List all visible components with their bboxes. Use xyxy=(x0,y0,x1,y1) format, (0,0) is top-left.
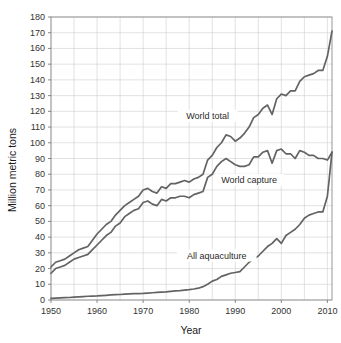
series-annotation-world-total: World total xyxy=(186,111,229,121)
y-tick-label: 20 xyxy=(35,264,45,274)
fisheries-production-chart: 0102030405060708090100110120130140150160… xyxy=(0,0,341,343)
x-tick-label: 1960 xyxy=(87,306,107,316)
y-tick-label: 180 xyxy=(30,12,45,22)
y-tick-labels: 0102030405060708090100110120130140150160… xyxy=(30,12,45,305)
x-tick-label: 2010 xyxy=(317,306,337,316)
y-tick-label: 60 xyxy=(35,201,45,211)
y-tick-label: 0 xyxy=(40,295,45,305)
y-tick-label: 130 xyxy=(30,91,45,101)
x-tick-label: 1990 xyxy=(225,306,245,316)
y-axis-title: Million metric tons xyxy=(6,128,18,212)
y-tick-label: 10 xyxy=(35,279,45,289)
chart-canvas: 0102030405060708090100110120130140150160… xyxy=(0,0,341,343)
series-annotation-world-capture: World capture xyxy=(221,175,277,185)
x-tick-label: 1950 xyxy=(41,306,61,316)
y-tick-label: 160 xyxy=(30,43,45,53)
x-tickmarks xyxy=(51,300,327,303)
x-tick-label: 1970 xyxy=(133,306,153,316)
y-tick-label: 70 xyxy=(35,185,45,195)
y-tick-label: 100 xyxy=(30,138,45,148)
x-tick-labels: 1950196019701980199020002010 xyxy=(41,306,337,316)
y-tick-label: 40 xyxy=(35,232,45,242)
y-tick-label: 150 xyxy=(30,59,45,69)
y-tick-label: 90 xyxy=(35,154,45,164)
y-tick-label: 30 xyxy=(35,248,45,258)
y-tick-label: 80 xyxy=(35,169,45,179)
x-axis-title: Year xyxy=(180,324,202,336)
x-tick-label: 1980 xyxy=(179,306,199,316)
y-tick-label: 170 xyxy=(30,28,45,38)
series-annotations: World totalWorld captureAll aquaculture xyxy=(177,110,284,262)
y-tick-label: 140 xyxy=(30,75,45,85)
x-tick-label: 2000 xyxy=(271,306,291,316)
series-line-world-total xyxy=(51,31,332,267)
y-tick-label: 110 xyxy=(31,122,45,132)
y-tick-label: 120 xyxy=(30,106,45,116)
series-annotation-all-aquaculture: All aquaculture xyxy=(187,251,247,261)
y-tick-label: 50 xyxy=(35,216,45,226)
